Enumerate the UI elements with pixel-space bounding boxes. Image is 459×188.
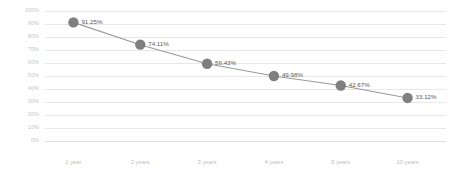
data-point-marker	[202, 59, 212, 69]
y-axis-tick-label: 60%	[28, 59, 39, 65]
data-point-marker	[402, 93, 412, 103]
y-axis-tick-label: 90%	[28, 20, 39, 26]
y-axis-tick-label: 0%	[31, 137, 39, 143]
y-axis-tick-label: 70%	[28, 46, 39, 52]
x-axis-tick-label: 5 years	[331, 159, 350, 165]
x-axis-tick-label: 4 years	[264, 159, 283, 165]
y-axis-tick-label: 80%	[28, 33, 39, 39]
data-point-marker	[269, 71, 279, 81]
data-point-label: 33.12%	[416, 93, 437, 100]
data-point-label: 74.11%	[148, 40, 169, 47]
data-point-marker	[135, 39, 145, 49]
data-point-markers	[68, 17, 413, 103]
data-point-label: 59.43%	[215, 59, 236, 66]
y-axis-tick-label: 40%	[28, 85, 39, 91]
gridlines	[45, 12, 446, 142]
line-chart: 100%90%80%70%60%50%40%30%20%10%0% 1 year…	[0, 0, 459, 188]
y-axis-tick-label: 50%	[28, 72, 39, 78]
y-axis-tick-label: 20%	[28, 111, 39, 117]
x-axis-tick-label: 2 years	[131, 159, 150, 165]
data-point-label: 49.98%	[282, 71, 303, 78]
x-axis-tick-label: 1 year	[65, 159, 81, 165]
y-axis-tick-label: 10%	[28, 124, 39, 130]
x-axis-tick-label: 10 years	[396, 159, 418, 165]
y-axis-tick-label: 100%	[25, 7, 39, 13]
y-axis-tick-label: 30%	[28, 98, 39, 104]
y-axis-tick-labels: 100%90%80%70%60%50%40%30%20%10%0%	[25, 7, 39, 143]
x-axis-tick-labels: 1 year2 years3 years4 years5 years10 yea…	[65, 159, 418, 165]
data-point-label: 91.25%	[81, 18, 102, 25]
data-point-marker	[68, 17, 78, 27]
x-axis-tick-label: 3 years	[198, 159, 217, 165]
chart-canvas: 100%90%80%70%60%50%40%30%20%10%0% 1 year…	[0, 0, 459, 188]
data-point-label: 42.67%	[349, 81, 370, 88]
data-point-marker	[336, 80, 346, 90]
data-point-labels: 91.25%74.11%59.43%49.98%42.67%33.12%	[81, 18, 437, 101]
